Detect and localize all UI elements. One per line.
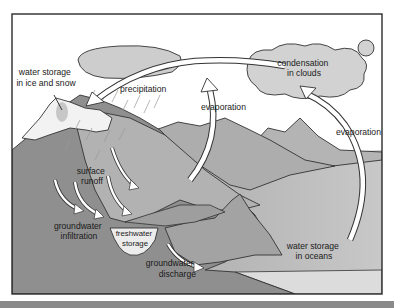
precipitation-cloud: [78, 46, 181, 79]
label-infiltration: groundwater infiltration: [54, 221, 104, 241]
label-evaporation-land: evaporation: [201, 102, 246, 112]
label-surface-runoff: surface runoff: [77, 166, 108, 186]
water-cycle-diagram: water storage in ice and snow precipitat…: [0, 0, 394, 308]
label-ice-snow: water storage in ice and snow: [16, 67, 76, 88]
label-precipitation: precipitation: [120, 84, 167, 94]
cloud-puff: [358, 40, 374, 56]
label-evaporation-ocean: evaporation: [336, 127, 381, 137]
snow-shade: [56, 102, 68, 122]
bottom-bar: [0, 301, 394, 308]
